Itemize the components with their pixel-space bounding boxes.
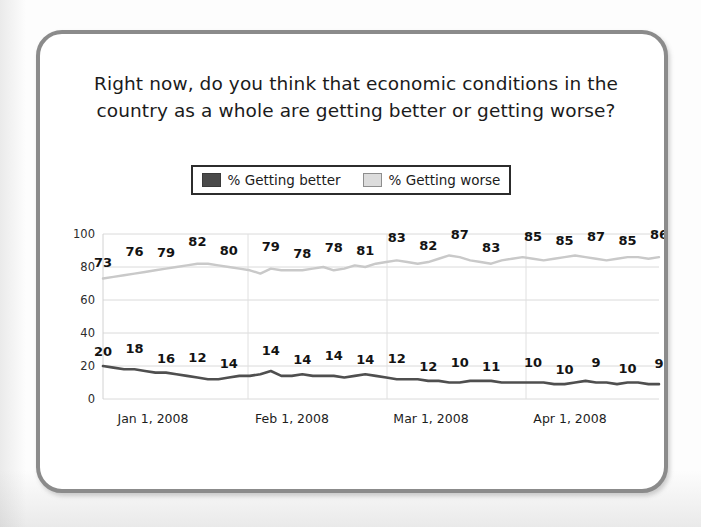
y-axis-tick-label: 100 (73, 227, 95, 241)
data-label: 87 (587, 229, 605, 244)
data-label: 79 (157, 245, 175, 260)
data-label: 80 (220, 243, 238, 258)
data-label: 85 (618, 233, 636, 248)
data-label: 87 (451, 227, 469, 242)
x-axis-tick-label: Apr 1, 2008 (533, 411, 606, 426)
chart-series-lines (103, 255, 659, 384)
legend-swatch-icon-worse (363, 173, 382, 187)
page-title: Right now, do you think that economic co… (86, 70, 626, 124)
data-label: 10 (556, 362, 574, 377)
data-label: 16 (157, 351, 175, 366)
title-line-2: country as a whole are getting better or… (86, 97, 626, 124)
data-label: 79 (262, 239, 280, 254)
data-label: 10 (618, 361, 636, 376)
data-label: 78 (293, 246, 311, 261)
data-label: 14 (293, 352, 311, 367)
x-axis-tick-label: Mar 1, 2008 (393, 411, 468, 426)
data-label: 9 (654, 356, 663, 371)
legend-swatch-icon-better (202, 173, 221, 187)
legend-label-worse: % Getting worse (389, 172, 501, 188)
data-label: 14 (325, 348, 343, 363)
x-axis-tick-label: Jan 1, 2008 (117, 411, 189, 426)
data-label: 73 (94, 255, 112, 270)
y-axis-tick-label: 40 (80, 326, 95, 340)
data-label: 12 (388, 351, 406, 366)
y-axis-tick-label: 80 (80, 260, 95, 274)
chart-legend: % Getting better % Getting worse (191, 165, 511, 195)
chart-x-axis-ticks: Jan 1, 2008Feb 1, 2008Mar 1, 2008Apr 1, … (117, 411, 607, 426)
screenshot-page: Right now, do you think that economic co… (0, 0, 701, 527)
series-line-getting-better (103, 366, 659, 384)
data-label: 10 (451, 355, 469, 370)
data-label: 20 (94, 344, 112, 359)
data-label: 85 (524, 229, 542, 244)
chart-y-axis-ticks: 020406080100 (73, 227, 95, 406)
chart-plot-container: 020406080100 Jan 1, 2008Feb 1, 2008Mar 1… (52, 212, 664, 437)
data-label: 14 (220, 356, 238, 371)
data-label: 83 (388, 230, 406, 245)
data-label: 82 (188, 234, 206, 249)
y-axis-tick-label: 60 (80, 293, 95, 307)
legend-item-getting-better: % Getting better (202, 172, 341, 188)
title-line-1: Right now, do you think that economic co… (86, 70, 626, 97)
data-label: 76 (125, 244, 143, 259)
data-label: 83 (482, 240, 500, 255)
data-label: 12 (419, 359, 437, 374)
data-label: 14 (262, 343, 280, 358)
data-label: 85 (556, 233, 574, 248)
legend-item-getting-worse: % Getting worse (363, 172, 501, 188)
data-label: 9 (592, 355, 601, 370)
data-label: 11 (482, 359, 500, 374)
data-label: 78 (325, 240, 343, 255)
y-axis-tick-label: 0 (88, 392, 95, 406)
chart-card: Right now, do you think that economic co… (36, 30, 668, 493)
chart-data-labels: 7376798280797878818382878385858785862018… (94, 227, 664, 377)
data-label: 82 (419, 238, 437, 253)
data-label: 81 (356, 243, 374, 258)
line-chart: 020406080100 Jan 1, 2008Feb 1, 2008Mar 1… (52, 212, 664, 437)
data-label: 18 (125, 341, 143, 356)
data-label: 86 (650, 227, 664, 242)
data-label: 10 (524, 355, 542, 370)
data-label: 12 (188, 350, 206, 365)
legend-label-better: % Getting better (228, 172, 341, 188)
y-axis-tick-label: 20 (80, 359, 95, 373)
x-axis-tick-label: Feb 1, 2008 (255, 411, 329, 426)
chart-gridlines (103, 234, 659, 399)
data-label: 14 (356, 352, 374, 367)
